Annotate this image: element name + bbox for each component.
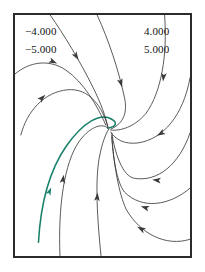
direction-arrow-group: [37, 51, 166, 233]
direction-arrow: [152, 177, 161, 184]
phase-portrait-figure: −4.000 −5.000 4.000 5.000: [0, 0, 205, 272]
highlighted-trajectory: [38, 117, 115, 242]
direction-arrow: [117, 78, 125, 88]
streamline: [112, 137, 190, 242]
streamline: [112, 133, 190, 179]
direction-arrow: [140, 204, 150, 212]
plot-frame: −4.000 −5.000 4.000 5.000: [13, 13, 192, 258]
axis-annotation-pos-five: 5.000: [144, 44, 169, 55]
axis-annotation-neg-four: −4.000: [25, 26, 57, 37]
axis-annotation-pos-four: 4.000: [144, 26, 169, 37]
direction-arrow: [72, 51, 81, 61]
axis-annotation-neg-five: −5.000: [25, 44, 57, 55]
streamline: [21, 90, 108, 135]
direction-arrow: [48, 57, 58, 66]
direction-arrow: [136, 224, 146, 233]
streamline: [50, 15, 108, 127]
streamline: [97, 15, 125, 129]
streamline: [97, 129, 109, 256]
